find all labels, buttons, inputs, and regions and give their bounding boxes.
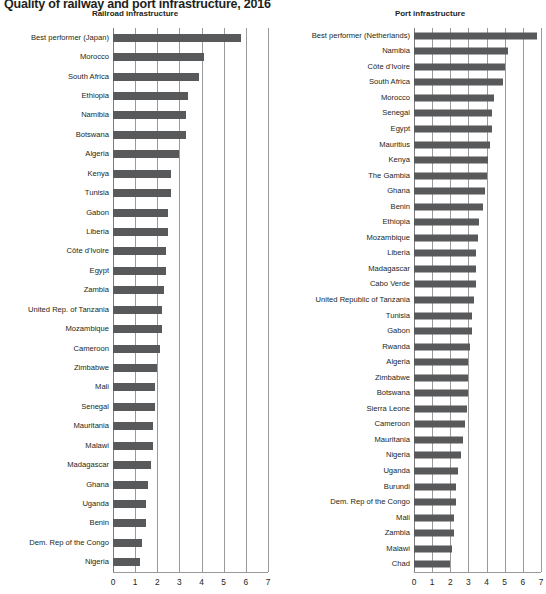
bar-row: [414, 417, 541, 433]
bar: [113, 209, 168, 217]
bar-row: [113, 455, 268, 474]
panel-port-plot: [414, 28, 541, 572]
bar: [113, 325, 162, 333]
category-label: Cameroon: [375, 420, 410, 428]
bar: [113, 539, 142, 547]
category-label: Nigeria: [85, 558, 109, 566]
bar: [113, 364, 157, 372]
category-label: Botswana: [377, 389, 410, 397]
bar-row: [113, 164, 268, 183]
bar: [113, 228, 168, 236]
bar-row: [414, 90, 541, 106]
bar-row: [414, 168, 541, 184]
bar: [113, 481, 148, 489]
category-label: Mauritius: [379, 141, 410, 149]
bar-row: [414, 183, 541, 199]
bar: [414, 359, 468, 366]
category-label: Tunisia: [386, 312, 410, 320]
bar-row: [113, 397, 268, 416]
bar-row: [414, 292, 541, 308]
bar: [414, 312, 472, 319]
bar-row: [414, 230, 541, 246]
bar: [414, 203, 483, 210]
category-label: Best performer (Japan): [31, 34, 109, 42]
bar-row: [414, 121, 541, 137]
category-label: Ethiopia: [82, 92, 109, 100]
x-tick-label: 6: [238, 578, 254, 586]
category-label: Namibia: [382, 47, 410, 55]
bar: [113, 53, 204, 61]
bar-row: [113, 319, 268, 338]
bar-row: [113, 203, 268, 222]
bar: [414, 483, 456, 490]
x-axis-line-port: [414, 572, 541, 573]
category-label: Malawi: [85, 442, 109, 450]
x-tick-label: 7: [533, 578, 546, 586]
bar-row: [414, 354, 541, 370]
bar: [113, 189, 171, 197]
bar-row: [414, 323, 541, 339]
x-tick-label: 1: [127, 578, 143, 586]
bar-row: [414, 308, 541, 324]
bar: [113, 131, 186, 139]
category-label: Zimbabwe: [375, 374, 410, 382]
bar-row: [414, 152, 541, 168]
category-label: Gabon: [86, 209, 109, 217]
bar-row: [414, 261, 541, 277]
bar: [113, 558, 140, 566]
gridline-7: [268, 28, 269, 572]
bar-row: [414, 215, 541, 231]
bar-row: [414, 28, 541, 44]
bar: [414, 94, 494, 101]
bar: [414, 250, 476, 257]
bar-row: [113, 436, 268, 455]
bar-row: [113, 553, 268, 572]
category-label: South Africa: [68, 73, 109, 81]
bar: [113, 73, 199, 81]
category-label: Kenya: [388, 156, 410, 164]
bar: [113, 247, 166, 255]
category-label: Liberia: [387, 249, 410, 257]
category-label: Dem. Rep of the Congo: [330, 498, 410, 506]
category-label: Uganda: [383, 467, 410, 475]
category-label: Chad: [392, 560, 410, 568]
panel-railroad: Railroad infrastructure Best performer (…: [0, 0, 272, 594]
bar: [113, 345, 160, 353]
figure-root: Quality of railway and port infrastructu…: [0, 0, 546, 594]
category-label: United Republic of Tanzania: [316, 296, 410, 304]
category-label: Mauritania: [375, 436, 410, 444]
bar-row: [414, 479, 541, 495]
x-tick-label: 4: [194, 578, 210, 586]
category-label: Tunisia: [85, 189, 109, 197]
bar-row: [113, 417, 268, 436]
category-label: Ethiopia: [383, 218, 410, 226]
category-label: Gabon: [387, 327, 410, 335]
bar: [113, 150, 179, 158]
bar-row: [113, 145, 268, 164]
bar-row: [414, 463, 541, 479]
category-label: Senegal: [382, 109, 410, 117]
category-label: Egypt: [90, 267, 109, 275]
bar-row: [414, 385, 541, 401]
bar-row: [113, 475, 268, 494]
category-label: Algeria: [85, 150, 109, 158]
bar: [414, 374, 468, 381]
bar: [414, 514, 454, 521]
category-label: Côte d'Ivoire: [67, 247, 109, 255]
bar: [414, 390, 468, 397]
category-label: Benin: [391, 203, 410, 211]
category-label: Ghana: [86, 481, 109, 489]
category-label: South Africa: [369, 78, 410, 86]
bar: [414, 343, 470, 350]
category-label: Rwanda: [382, 343, 410, 351]
bar: [113, 461, 151, 469]
x-tick-label: 1: [424, 578, 440, 586]
bar-row: [414, 448, 541, 464]
category-label: Benin: [90, 519, 109, 527]
bar-row: [113, 281, 268, 300]
bar: [414, 421, 465, 428]
x-tick-label: 3: [171, 578, 187, 586]
bar: [113, 306, 162, 314]
bar-row: [113, 183, 268, 202]
category-label: Mozambique: [66, 325, 109, 333]
